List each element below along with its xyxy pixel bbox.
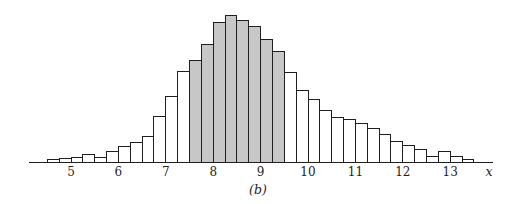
histogram-bar (154, 116, 166, 162)
histogram-bar (142, 136, 154, 162)
histogram-bar (83, 154, 95, 162)
histogram-bar (462, 159, 474, 162)
histogram-bar-shaded (249, 26, 261, 162)
figure-caption: (b) (249, 182, 267, 197)
histogram-bar (296, 90, 308, 162)
histogram-bar (118, 146, 130, 162)
histogram-bar (438, 151, 450, 162)
histogram-bar (379, 134, 391, 162)
x-tick-label-11: 11 (348, 165, 363, 179)
histogram-bar (59, 158, 71, 162)
x-tick-label-7: 7 (162, 165, 170, 179)
histogram-bar (95, 157, 107, 162)
histogram-bars (47, 15, 474, 162)
x-tick-label-13: 13 (443, 165, 458, 179)
histogram-bar-shaded (272, 51, 284, 162)
x-axis-variable-label: x (485, 164, 492, 179)
histogram-bar (130, 142, 142, 162)
x-tick-label-5: 5 (67, 165, 75, 179)
histogram-bar (107, 151, 119, 162)
histogram-bar (403, 145, 415, 162)
histogram-figure: 5678910111213 x (b) (0, 0, 519, 204)
histogram-bar (284, 72, 296, 162)
histogram-bar (355, 123, 367, 162)
histogram-plot: 5678910111213 x (b) (0, 0, 519, 204)
x-tick-label-8: 8 (209, 165, 217, 179)
x-tick-label-10: 10 (300, 165, 315, 179)
histogram-bar-shaded (190, 60, 202, 162)
histogram-bar-shaded (261, 39, 273, 162)
histogram-bar (71, 157, 83, 162)
histogram-bar (391, 141, 403, 162)
histogram-bar-shaded (201, 44, 213, 162)
histogram-bar (166, 96, 178, 162)
x-tick-label-12: 12 (395, 165, 410, 179)
histogram-bar-shaded (237, 20, 249, 162)
x-axis-tick-labels: 5678910111213 (67, 165, 458, 179)
histogram-bar (308, 99, 320, 162)
x-tick-label-9: 9 (257, 165, 265, 179)
x-tick-label-6: 6 (115, 165, 123, 179)
histogram-bar (332, 117, 344, 162)
histogram-bar-shaded (213, 22, 225, 162)
histogram-bar (344, 119, 356, 162)
histogram-bar (178, 71, 190, 162)
histogram-bar (367, 128, 379, 162)
histogram-bar (427, 156, 439, 162)
histogram-bar (450, 156, 462, 162)
histogram-bar (415, 149, 427, 162)
histogram-bar (320, 110, 332, 162)
histogram-bar (47, 159, 59, 162)
histogram-bar-shaded (225, 15, 237, 162)
